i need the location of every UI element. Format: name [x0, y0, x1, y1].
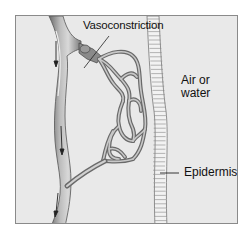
epidermis-label: Epidermis — [184, 166, 237, 179]
return-vessel — [67, 161, 105, 186]
diagram-frame: Vasoconstriction Air or water Epidermis — [15, 15, 238, 224]
air-label-line2: water — [181, 87, 210, 100]
air-water-label: Air or water — [181, 74, 210, 100]
vascular-diagram — [16, 16, 238, 224]
epidermis-layer — [147, 16, 167, 224]
main-blood-vessel — [49, 16, 81, 224]
vasoconstriction-label: Vasoconstriction — [83, 19, 163, 32]
